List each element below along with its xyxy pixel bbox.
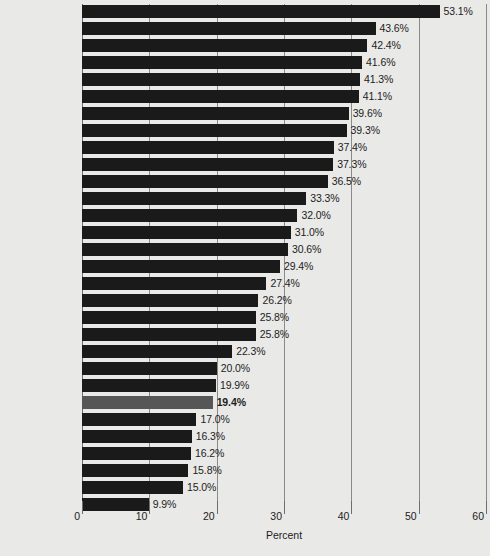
x-tick-mark-20 (217, 501, 218, 514)
bar-value-label: 33.3% (306, 191, 339, 206)
bar-row: Norway39.6% (82, 106, 486, 123)
bar-value-label: 29.4% (280, 259, 313, 274)
gridline-60 (486, 4, 487, 501)
x-tick-mark-30 (284, 501, 285, 514)
bar-value-label: 15.8% (188, 463, 221, 478)
x-tick-mark-0 (82, 501, 83, 514)
bar-row: Austria30.6% (82, 242, 486, 259)
bar-value-label: 42.4% (367, 38, 400, 53)
bar-row: Mexico42.4% (82, 38, 486, 55)
bar-value-label: 36.5% (328, 174, 361, 189)
bar (82, 413, 196, 426)
bar (82, 56, 362, 69)
bar-value-label: 20.0% (217, 361, 250, 376)
bar-value-label: 32.0% (297, 208, 330, 223)
x-tick-label: 0 (40, 510, 80, 522)
bar-row: Netherlands37.3% (82, 157, 486, 174)
bar (82, 430, 192, 443)
bar-row: Italy31.0% (82, 225, 486, 242)
bar-row: Paraguay15.0% (82, 480, 486, 497)
bar-row: Chile15.8% (82, 463, 486, 480)
x-tick-label: 50 (377, 510, 417, 522)
bar (82, 107, 349, 120)
bar-value-label: 25.8% (256, 310, 289, 325)
bar-chart: Bolivia53.1%Sweden43.6%Mexico42.4%Ecuado… (0, 0, 490, 556)
bar (82, 192, 306, 205)
bar-value-label: 39.3% (347, 123, 380, 138)
bar-row: France26.2% (82, 293, 486, 310)
bar (82, 481, 183, 494)
bar-value-label: 37.4% (334, 140, 367, 155)
x-tick-mark-50 (419, 501, 420, 514)
bar (82, 260, 280, 273)
bar (82, 277, 266, 290)
x-axis: 0102030405060 (82, 501, 486, 521)
bar-value-label: 37.3% (333, 157, 366, 172)
bar-row: Germany36.5% (82, 174, 486, 191)
bar (82, 379, 216, 392)
bar (82, 396, 213, 409)
bar-row: Ireland16.3% (82, 429, 486, 446)
bar-row: Poland27.4% (82, 276, 486, 293)
bar-value-label: 53.1% (440, 4, 473, 19)
bar (82, 5, 440, 18)
bar-value-label: 39.6% (349, 106, 382, 121)
plot-area: Bolivia53.1%Sweden43.6%Mexico42.4%Ecuado… (82, 4, 486, 501)
bar-value-label: 15.0% (183, 480, 216, 495)
bar-row: Ecuador41.6% (82, 55, 486, 72)
bar-value-label: 17.0% (196, 412, 229, 427)
bar-row: Sweden43.6% (82, 21, 486, 38)
bar (82, 73, 360, 86)
bar-value-label: 41.1% (359, 89, 392, 104)
bar (82, 90, 359, 103)
bar (82, 175, 328, 188)
bar-value-label: 27.4% (266, 276, 299, 291)
bar-value-label: 16.3% (192, 429, 225, 444)
bar (82, 158, 333, 171)
bar-value-label: 41.3% (360, 72, 393, 87)
x-tick-label: 20 (175, 510, 215, 522)
bar-row: Denmark37.4% (82, 140, 486, 157)
bar-row: United Kingdom29.4% (82, 259, 486, 276)
bar-value-label: 16.2% (191, 446, 224, 461)
bar-row: Costa Rica33.3% (82, 191, 486, 208)
bar-row: Belgium39.3% (82, 123, 486, 140)
bar-row: Nicaragua41.3% (82, 72, 486, 89)
bar-row: Spain41.1% (82, 89, 486, 106)
bar-value-label: 30.6% (288, 242, 321, 257)
bar-row: Peru22.3% (82, 344, 486, 361)
bar-row: Venezuela17.0% (82, 412, 486, 429)
bar (82, 464, 188, 477)
bar (82, 141, 334, 154)
bar-value-label: 25.8% (256, 327, 289, 342)
bar-row: Czech Republic20.0% (82, 361, 486, 378)
x-tick-mark-40 (351, 501, 352, 514)
x-tick-label: 40 (309, 510, 349, 522)
bar (82, 345, 232, 358)
bar (82, 209, 297, 222)
bar (82, 226, 291, 239)
x-tick-mark-10 (149, 501, 150, 514)
x-tick-label: 30 (242, 510, 282, 522)
bar-row: Bolivia53.1% (82, 4, 486, 21)
bar-row: United States19.4% (82, 395, 486, 412)
x-axis-title: Percent (82, 529, 486, 541)
bar (82, 294, 258, 307)
bar-value-label: 26.2% (258, 293, 291, 308)
bar (82, 362, 217, 375)
bar (82, 22, 376, 35)
bar (82, 328, 256, 341)
bar-row: Honduras25.8% (82, 327, 486, 344)
bar (82, 39, 367, 52)
bar-row: Switzerland32.0% (82, 208, 486, 225)
bar-value-label: 43.6% (376, 21, 409, 36)
x-tick-mark-60 (486, 501, 487, 514)
bar-row: Canada25.8% (82, 310, 486, 327)
bar-value-label: 19.9% (216, 378, 249, 393)
bar (82, 311, 256, 324)
bar-value-label: 41.6% (362, 55, 395, 70)
bar-value-label: 19.4% (213, 395, 246, 410)
bar-value-label: 31.0% (291, 225, 324, 240)
bar-row: Colombia19.9% (82, 378, 486, 395)
x-tick-label: 60 (444, 510, 484, 522)
